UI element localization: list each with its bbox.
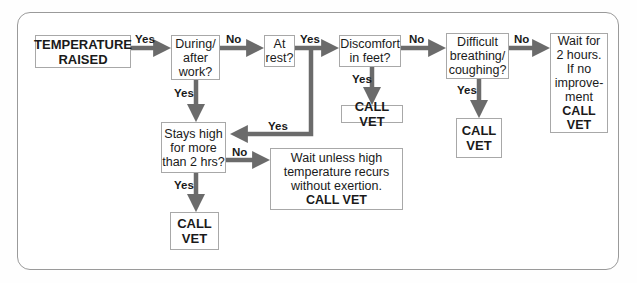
edge-label-during-yes: Yes <box>174 87 194 99</box>
edge-label-during-no: No <box>226 33 241 45</box>
edge-label-rest-yes: Yes <box>300 33 320 45</box>
edge-label-discomfort-no: No <box>409 33 424 45</box>
wait-unless-text: Wait unless high temperature recurs with… <box>284 151 390 193</box>
edge-label-stays-yes: Yes <box>174 179 194 191</box>
stays-high-decision: Stays high for more than 2 hrs? <box>161 122 226 173</box>
edge-label-breathing-yes: Yes <box>457 84 477 96</box>
start-node: TEMPERATURE RAISED <box>35 35 131 68</box>
edge-label-start-yes: Yes <box>135 33 155 45</box>
call-vet-feet: CALL VET <box>341 105 403 123</box>
during-work-decision: During/ after work? <box>171 35 220 80</box>
wait-unless-action: CALL VET <box>306 193 367 207</box>
call-vet-stays: CALL VET <box>170 212 219 250</box>
edge-label-stays-no: No <box>232 146 247 158</box>
call-vet-breathing: CALL VET <box>456 118 502 158</box>
discomfort-decision: Discomfort in feet? <box>339 35 401 67</box>
edge-label-breathing-no: No <box>514 33 529 45</box>
breathing-decision: Difficult breathing/ coughing? <box>446 33 509 79</box>
wait-2h-node: Wait for 2 hours. If no improve- ment CA… <box>550 33 608 133</box>
wait-2h-text: Wait for 2 hours. If no improve- ment <box>555 34 604 104</box>
edge-label-rest-to-stays-yes: Yes <box>268 120 288 132</box>
wait-2h-action: CALL VET <box>562 104 595 132</box>
wait-unless-node: Wait unless high temperature recurs with… <box>270 148 403 210</box>
edge-label-discomfort-yes: Yes <box>352 73 372 85</box>
at-rest-decision: At rest? <box>264 35 295 67</box>
